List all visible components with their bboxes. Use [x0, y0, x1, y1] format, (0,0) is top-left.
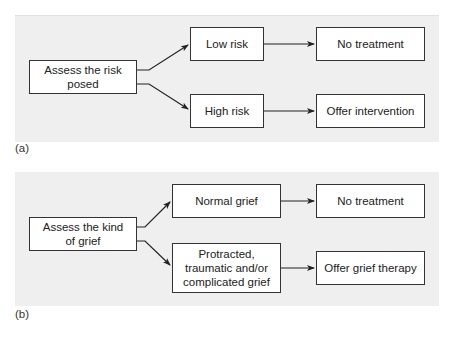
no-treatment-text-b: No treatment — [337, 194, 403, 208]
no-treatment-text-a: No treatment — [337, 37, 403, 51]
low-risk-text: Low risk — [206, 37, 248, 51]
assess-grief-text: Assess the kind of grief — [40, 220, 126, 248]
assess-grief-box: Assess the kind of grief — [29, 217, 137, 251]
assess-risk-box: Assess the risk posed — [29, 60, 137, 94]
no-treatment-box-b: No treatment — [316, 184, 425, 218]
offer-grief-therapy-text: Offer grief therapy — [324, 261, 416, 275]
offer-intervention-text: Offer intervention — [326, 104, 414, 118]
assess-risk-text: Assess the risk posed — [38, 63, 128, 91]
offer-grief-therapy-box: Offer grief therapy — [316, 251, 425, 285]
high-risk-box: High risk — [190, 94, 264, 128]
normal-grief-text: Normal grief — [195, 194, 258, 208]
panel-b-label: (b) — [15, 308, 29, 320]
offer-intervention-box: Offer intervention — [316, 94, 425, 128]
low-risk-box: Low risk — [190, 27, 264, 61]
panel-a-label: (a) — [15, 142, 29, 154]
no-treatment-box-a: No treatment — [316, 27, 425, 61]
high-risk-text: High risk — [205, 104, 250, 118]
normal-grief-box: Normal grief — [172, 184, 281, 218]
complicated-grief-box: Protracted, traumatic and/or complicated… — [172, 243, 281, 293]
complicated-grief-text: Protracted, traumatic and/or complicated… — [179, 247, 274, 289]
